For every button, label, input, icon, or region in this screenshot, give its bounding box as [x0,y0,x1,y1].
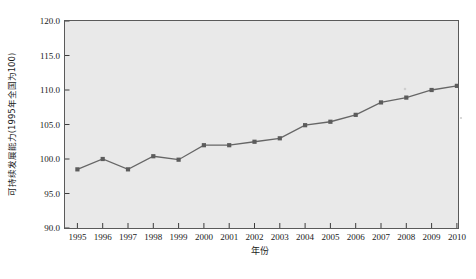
data-point [177,158,181,162]
x-tick-label: 1999 [170,232,189,242]
scan-speck [404,88,407,91]
x-tick-label: 2010 [448,232,467,242]
y-tick-label: 100.0 [40,154,61,164]
data-point [278,136,282,140]
scan-speck [460,117,462,119]
data-point [75,167,79,171]
y-tick-label: 115.0 [40,51,60,61]
data-point [202,143,206,147]
plot-area-background [65,21,459,229]
data-point [151,154,155,158]
y-tick-label: 120.0 [40,16,61,26]
x-tick-label: 2008 [397,232,416,242]
x-tick-label: 2002 [246,232,264,242]
y-tick-label: 110.0 [40,85,60,95]
data-point [430,88,434,92]
data-point [404,95,408,99]
x-tick-label: 2006 [347,232,366,242]
y-tick-label: 95.0 [44,189,60,199]
x-tick-label: 1997 [119,232,138,242]
x-tick-label: 2005 [321,232,340,242]
data-point [354,113,358,117]
data-point [379,100,383,104]
chart-svg: 120.0 115.0 110.0 105.0 100.0 95.0 90.0 … [0,0,476,279]
data-point [252,140,256,144]
x-tick-label: 2000 [195,232,214,242]
y-tick-label: 90.0 [44,223,60,233]
y-tick-label: 105.0 [40,120,61,130]
x-tick-label: 2003 [271,232,290,242]
x-tick-label: 2004 [296,232,315,242]
data-point [126,167,130,171]
data-point [303,123,307,127]
y-axis-title: 可持续发展能力(1995年全国为100) [7,53,17,197]
x-tick-label: 2009 [423,232,442,242]
x-tick-label: 1995 [68,232,87,242]
data-point [328,120,332,124]
chart-figure: 120.0 115.0 110.0 105.0 100.0 95.0 90.0 … [0,0,476,279]
x-tick-label: 2001 [220,232,238,242]
data-point [101,157,105,161]
x-tick-label: 2007 [372,232,391,242]
x-tick-label: 1996 [94,232,113,242]
data-point [227,143,231,147]
x-axis-title: 年份 [251,245,269,256]
x-tick-label: 1998 [144,232,163,242]
